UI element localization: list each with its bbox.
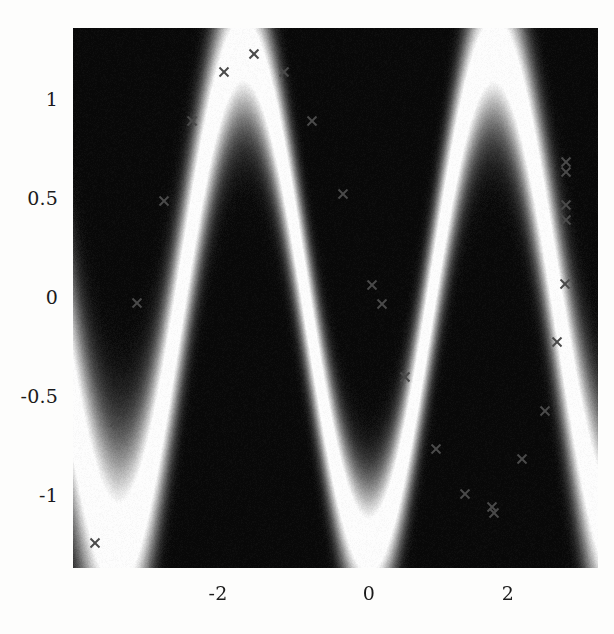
x-axis-tick-labels: -2 0 2: [0, 0, 614, 634]
figure-predictive-density: 1 0.5 0 -0.5 -1 -2 0 2: [0, 0, 614, 634]
x-tick-label: 2: [478, 584, 538, 603]
x-tick-label: -2: [188, 584, 248, 603]
x-tick-label: 0: [339, 584, 399, 603]
